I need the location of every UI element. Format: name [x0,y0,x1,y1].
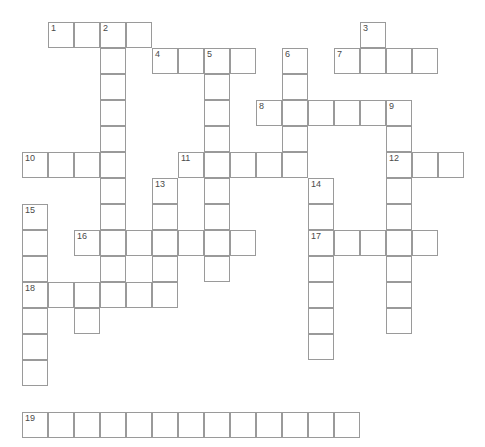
crossword-cell[interactable] [100,48,126,74]
crossword-cell[interactable] [282,126,308,152]
crossword-cell[interactable] [412,48,438,74]
crossword-cell-numbered-2[interactable]: 2 [100,22,126,48]
crossword-cell[interactable] [74,412,100,438]
crossword-cell-numbered-10[interactable]: 10 [22,152,48,178]
crossword-cell[interactable] [230,412,256,438]
crossword-cell-numbered-9[interactable]: 9 [386,100,412,126]
crossword-cell[interactable] [334,412,360,438]
crossword-cell[interactable] [74,282,100,308]
crossword-cell[interactable] [360,100,386,126]
crossword-cell[interactable] [386,282,412,308]
crossword-cell[interactable] [126,230,152,256]
crossword-cell[interactable] [308,100,334,126]
crossword-cell-numbered-13[interactable]: 13 [152,178,178,204]
crossword-cell[interactable] [204,178,230,204]
crossword-cell[interactable] [152,412,178,438]
crossword-cell[interactable] [22,230,48,256]
crossword-cell[interactable] [152,282,178,308]
crossword-cell[interactable] [386,48,412,74]
crossword-cell[interactable] [100,152,126,178]
crossword-cell[interactable] [386,178,412,204]
crossword-cell[interactable] [360,48,386,74]
crossword-cell-numbered-19[interactable]: 19 [22,412,48,438]
crossword-cell-numbered-6[interactable]: 6 [282,48,308,74]
crossword-cell-numbered-16[interactable]: 16 [74,230,100,256]
crossword-cell[interactable] [22,334,48,360]
crossword-cell[interactable] [126,282,152,308]
crossword-cell[interactable] [204,204,230,230]
crossword-cell[interactable] [282,74,308,100]
crossword-cell[interactable] [386,256,412,282]
crossword-cell[interactable] [204,230,230,256]
crossword-cell[interactable] [100,256,126,282]
crossword-cell[interactable] [100,126,126,152]
crossword-cell[interactable] [230,48,256,74]
crossword-cell[interactable] [256,152,282,178]
crossword-cell-numbered-11[interactable]: 11 [178,152,204,178]
crossword-cell[interactable] [178,412,204,438]
crossword-cell-numbered-14[interactable]: 14 [308,178,334,204]
crossword-cell[interactable] [100,74,126,100]
crossword-cell[interactable] [100,178,126,204]
crossword-cell[interactable] [48,152,74,178]
crossword-cell[interactable] [204,74,230,100]
crossword-cell[interactable] [386,204,412,230]
crossword-cell-numbered-8[interactable]: 8 [256,100,282,126]
crossword-cell[interactable] [386,126,412,152]
crossword-cell[interactable] [152,256,178,282]
crossword-cell[interactable] [282,100,308,126]
crossword-cell[interactable] [308,282,334,308]
crossword-cell[interactable] [334,100,360,126]
crossword-cell-numbered-15[interactable]: 15 [22,204,48,230]
crossword-cell[interactable] [22,360,48,386]
crossword-cell[interactable] [282,412,308,438]
crossword-cell[interactable] [308,412,334,438]
crossword-cell[interactable] [412,152,438,178]
crossword-cell[interactable] [230,230,256,256]
crossword-cell[interactable] [386,230,412,256]
crossword-cell-numbered-12[interactable]: 12 [386,152,412,178]
crossword-cell[interactable] [308,256,334,282]
crossword-cell-numbered-5[interactable]: 5 [204,48,230,74]
crossword-cell[interactable] [74,22,100,48]
crossword-cell-numbered-1[interactable]: 1 [48,22,74,48]
crossword-cell-numbered-4[interactable]: 4 [152,48,178,74]
crossword-cell[interactable] [308,308,334,334]
crossword-cell[interactable] [438,152,464,178]
crossword-cell[interactable] [204,100,230,126]
crossword-cell[interactable] [412,230,438,256]
crossword-cell[interactable] [386,308,412,334]
crossword-cell[interactable] [230,152,256,178]
crossword-cell[interactable] [152,204,178,230]
crossword-cell[interactable] [126,22,152,48]
crossword-cell[interactable] [100,412,126,438]
crossword-cell[interactable] [178,48,204,74]
crossword-cell[interactable] [74,152,100,178]
crossword-cell[interactable] [48,282,74,308]
crossword-cell-numbered-7[interactable]: 7 [334,48,360,74]
crossword-cell[interactable] [360,230,386,256]
crossword-cell[interactable] [100,204,126,230]
crossword-cell-numbered-18[interactable]: 18 [22,282,48,308]
crossword-cell[interactable] [204,412,230,438]
crossword-cell[interactable] [204,152,230,178]
crossword-cell[interactable] [152,230,178,256]
crossword-cell[interactable] [100,230,126,256]
crossword-cell[interactable] [204,126,230,152]
crossword-cell-numbered-3[interactable]: 3 [360,22,386,48]
crossword-cell-numbered-17[interactable]: 17 [308,230,334,256]
crossword-cell[interactable] [100,282,126,308]
crossword-cell[interactable] [256,412,282,438]
crossword-cell[interactable] [308,204,334,230]
crossword-cell[interactable] [74,308,100,334]
crossword-cell[interactable] [282,152,308,178]
crossword-cell[interactable] [308,334,334,360]
crossword-cell[interactable] [126,412,152,438]
crossword-cell[interactable] [100,100,126,126]
crossword-cell[interactable] [204,256,230,282]
crossword-cell[interactable] [48,412,74,438]
crossword-cell[interactable] [334,230,360,256]
crossword-cell[interactable] [22,256,48,282]
crossword-cell[interactable] [178,230,204,256]
crossword-cell[interactable] [22,308,48,334]
